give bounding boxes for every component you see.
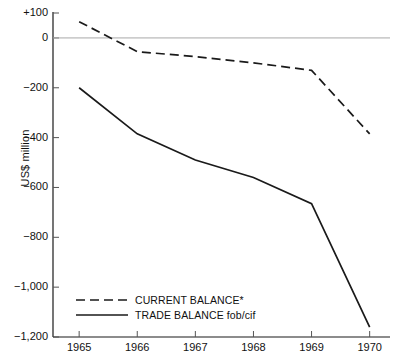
- axes-group: [53, 12, 390, 337]
- legend-item-current-balance: CURRENT BALANCE*: [76, 292, 256, 307]
- data-series-group: [79, 22, 370, 327]
- legend-label-trade-balance: TRADE BALANCE fob/cif: [135, 308, 256, 322]
- legend-label-current-balance: CURRENT BALANCE*: [135, 293, 244, 307]
- dashed-line-swatch-icon: [76, 294, 128, 306]
- chart-container: US$ million +1000−200−400−600−800−1,000−…: [0, 0, 397, 361]
- solid-line-swatch-icon: [76, 309, 128, 321]
- series-line-0: [79, 22, 370, 134]
- legend-item-trade-balance: TRADE BALANCE fob/cif: [76, 307, 256, 322]
- chart-legend: CURRENT BALANCE* TRADE BALANCE fob/cif: [76, 292, 256, 322]
